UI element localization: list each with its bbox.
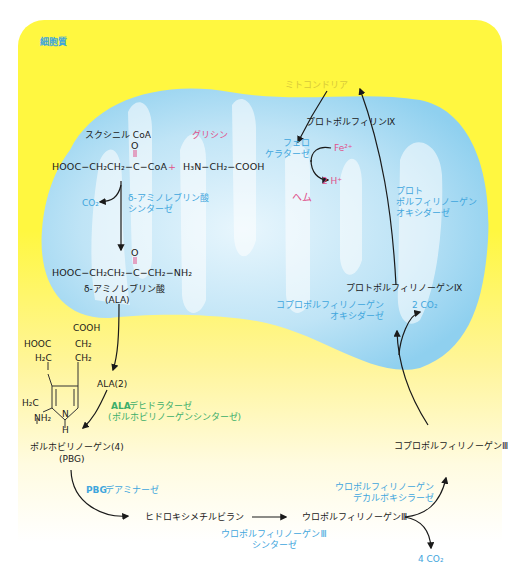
co2-label: CO₂ [82,198,99,209]
arrow-copro-oxidase [397,331,428,425]
proto-oxidase-line1: プロト [396,186,423,197]
carbonyl-o-2: O [131,247,139,258]
heme-label: ヘム [292,192,312,203]
pbg-deaminase-bold: PBG [86,485,107,496]
uro3-synthase-line1: ウロポルフィリノーゲンⅢ [214,529,334,540]
arrow-co2-release [100,185,121,202]
2co2-label: 2 CO₂ [412,300,438,311]
uro3-synthase-line2: シンターゼ [214,540,334,551]
copro-oxidase-line2: オキシダーゼ [260,311,384,322]
pbg-nh2: NH₂ [34,413,51,424]
pbg-h: H [62,425,69,436]
pbg-name: ポルホビリノーゲン(4) [30,442,124,453]
4co2-label: 4 CO₂ [418,554,444,565]
ala-abbr: (ALA) [105,295,130,306]
pbg-cooh: COOH [73,323,100,334]
proto-oxidase-line2: ポルフィリノーゲン [396,197,477,208]
uro-decarboxylase-line2: デカルボキシラーゼ [330,493,434,504]
fe-label: Fe²⁺ [334,143,353,154]
glycine-label: グリシン [192,130,228,141]
ala-formula: HOOC−CH₂CH₂−C−CH₂−NH₂ [52,267,192,278]
ala-synthase-line2: シンターゼ [128,204,173,215]
pbg-ch2-a: CH₂ [75,339,92,350]
arrow-ala2-to-pbg [83,390,107,428]
hydroxymethylbilane-label: ヒドロキシメチルビラン [145,512,244,523]
ala-name: δ-アミノレブリン酸 [84,284,165,295]
cytoplasm-label: 細胞質 [40,37,67,48]
coproporphyrinogen3-label: コプロポルフィリノーゲンⅢ [394,441,508,452]
ala-dehydratase-alt: (ポルホビリノーゲンシンターゼ) [108,412,241,423]
carbonyl-o-1: O [131,140,139,151]
proto-oxidase-line3: オキシダーゼ [396,208,450,219]
pbg-ch2-b: CH₂ [75,353,92,364]
pbg-abbr: (PBG) [59,454,84,465]
arrow-4co2-release [405,517,431,548]
arrow-fe-in [311,147,331,162]
protoporphyrinogen9-label: プロトポルフィリノーゲンⅨ [346,283,462,294]
copro-oxidase-line1: コプロポルフィリノーゲン [260,300,384,311]
heme-biosynthesis-diagram: 細胞質 ミトコンドリア スクシニル CoA グリシン O HOOC−CH₂CH₂… [0,0,516,575]
pbg-h2c-b: H₂C [22,398,39,409]
pbg-deaminase-label: デアミナーゼ [105,485,159,496]
succinyl-coa-label: スクシニル CoA [85,130,151,141]
arrow-ala-to-ala2 [113,304,119,370]
plus-sign: + [168,161,176,172]
mitochondria-label: ミトコンドリア [285,80,348,91]
protoporphyrin9-label: プロトポルフィリンⅨ [306,117,395,128]
arrow-2co2-release [399,312,420,355]
ala2-label: ALA(2) [97,379,127,390]
uro-decarboxylase-line1: ウロポルフィリノーゲン [330,482,434,493]
uroporphyrinogen3-label: ウロポルフィリノーゲンⅢ [302,512,407,523]
ala-dehydratase-label: デヒドラターゼ [129,401,192,412]
ala-dehydratase-bold: ALA [111,401,131,412]
pbg-hooc: HOOC [24,339,51,350]
ferrochelatase-line1: フェロ [270,138,310,149]
succinyl-coa-formula: HOOC−CH₂CH₂−C−CoA [52,161,167,172]
2h-label: 2 H⁺ [322,176,342,187]
pbg-h2c-a: H₂C [35,353,52,364]
pbg-n: N [62,409,69,420]
ferrochelatase-line2: ケラターゼ [250,149,310,160]
ala-synthase-line1: δ-アミノレブリン酸 [128,193,209,204]
glycine-formula: H₃N−CH₂−COOH [183,161,265,172]
